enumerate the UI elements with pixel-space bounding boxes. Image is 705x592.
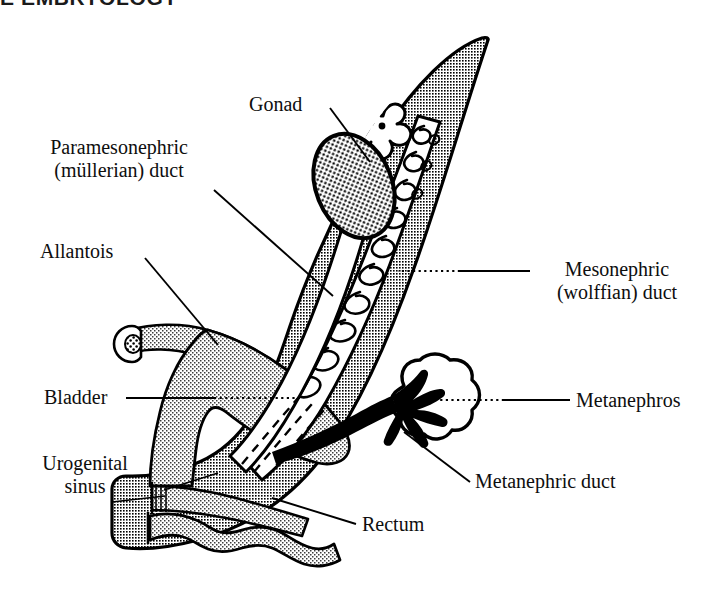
- label-rectum: Rectum: [362, 513, 424, 536]
- label-paramesonephric-duct: Paramesonephric (müllerian) duct: [24, 136, 214, 182]
- paramesonephric-leader: [214, 190, 333, 296]
- label-gonad: Gonad: [249, 93, 302, 116]
- label-metanephric-duct: Metanephric duct: [475, 470, 616, 493]
- label-metanephros: Metanephros: [576, 389, 680, 412]
- label-urogenital-sinus: Urogenital sinus: [10, 452, 160, 498]
- label-mesonephric-duct: Mesonephric (wolffian) duct: [536, 258, 698, 304]
- label-allantois: Allantois: [40, 240, 113, 263]
- label-mesonephric-line1: Mesonephric: [536, 258, 698, 281]
- label-paramesonephric-line2: (müllerian) duct: [24, 159, 214, 182]
- figure-root: E EMBRYOLOGY: [0, 0, 705, 592]
- label-bladder: Bladder: [44, 386, 107, 409]
- label-urogenital-line1: Urogenital: [10, 452, 160, 475]
- label-urogenital-line2: sinus: [10, 475, 160, 498]
- label-mesonephric-line2: (wolffian) duct: [536, 281, 698, 304]
- label-paramesonephric-line1: Paramesonephric: [24, 136, 214, 159]
